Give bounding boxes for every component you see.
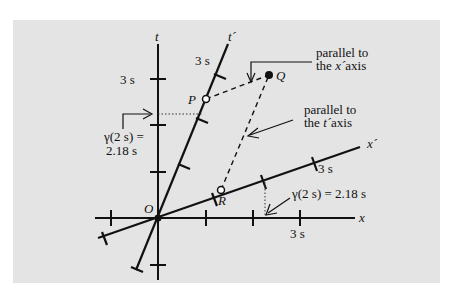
point-q xyxy=(265,71,273,79)
gamma-t-label-line2: 2.18 s xyxy=(106,143,137,158)
t-axis-label: t xyxy=(155,29,159,44)
x-prime-axis-label: x´ xyxy=(366,136,378,151)
t-axis xyxy=(150,44,166,280)
construction-lines xyxy=(206,75,269,190)
point-p-label: P xyxy=(187,92,196,107)
origin-point xyxy=(155,215,162,222)
origin-label: O xyxy=(144,201,154,216)
spacetime-diagram: t t´ x x´ 3 s 3 s 3 s 3 s O P Q R parall… xyxy=(0,0,456,296)
x-axis-tick-3s: 3 s xyxy=(290,226,305,241)
point-p xyxy=(203,96,210,103)
t-prime-tick-3s: 3 s xyxy=(195,53,210,68)
parallel-x-prime-label-line2: the x´axis xyxy=(316,58,366,73)
parallel-t-prime-label-line2: the t´axis xyxy=(304,115,352,130)
point-r-label: R xyxy=(217,193,226,208)
t-prime-axis-label: t´ xyxy=(228,29,237,44)
gamma-t-label-line1: γ(2 s) = xyxy=(103,129,144,144)
x-axis xyxy=(95,210,355,226)
projection-lines xyxy=(158,114,265,217)
gamma-x-label: γ(2 s) = 2.18 s xyxy=(291,186,366,201)
t-axis-tick-3s: 3 s xyxy=(120,72,135,87)
x-prime-tick-3s: 3 s xyxy=(318,161,333,176)
t-prime-axis xyxy=(131,44,228,272)
point-q-label: Q xyxy=(276,68,286,83)
x-axis-label: x xyxy=(358,210,365,225)
